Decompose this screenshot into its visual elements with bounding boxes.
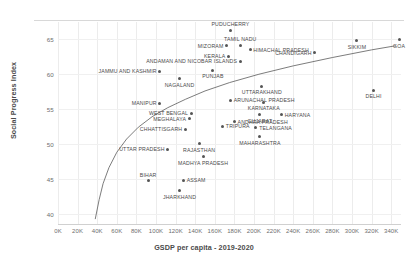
data-point[interactable] [229, 29, 232, 32]
data-point[interactable] [239, 60, 242, 63]
x-axis-tick-label: 340K [384, 228, 398, 234]
y-axis-tick-label: 45 [47, 175, 54, 182]
data-point-label: TELANGANA [259, 125, 292, 131]
x-axis-tick-label: 60K [111, 228, 122, 234]
x-axis-tick-label: 100K [149, 228, 163, 234]
data-point[interactable] [190, 112, 193, 115]
data-point-label: DELHI [366, 93, 382, 99]
x-axis-title: GSDP per capita - 2019-2020 [0, 243, 408, 252]
data-point[interactable] [211, 69, 214, 72]
x-axis-tick-label: 80K [131, 228, 142, 234]
data-point-label: PUNJAB [202, 73, 223, 79]
data-point[interactable] [202, 155, 205, 158]
scatter-chart: PUDUCHERRYTAMIL NADUMIZORAMHIMACHAL PRAD… [0, 0, 408, 261]
x-axis-tick-label: 300K [345, 228, 359, 234]
x-axis-tick-label: 180K [227, 228, 241, 234]
data-point-label: UTTARAKHAND [242, 89, 282, 95]
data-point-label: UTTAR PRADESH [119, 146, 164, 152]
y-axis-tick-label: 65 [47, 36, 54, 43]
x-axis-line [58, 224, 401, 225]
x-axis-ticks: 0K20K40K60K80K100K120K140K160K180K200K22… [58, 228, 401, 240]
data-point-label: MANIPUR [132, 100, 157, 106]
y-axis-tick-label: 55 [47, 106, 54, 113]
data-point-label: ANDAMAN AND NICOBAR ISLANDS [146, 58, 237, 64]
data-point-label: HARYANA [285, 112, 311, 118]
data-point-label: JHARKHAND [163, 194, 196, 200]
x-axis-tick-label: 220K [266, 228, 280, 234]
data-point[interactable] [372, 89, 375, 92]
x-axis-tick-label: 200K [247, 228, 261, 234]
data-point[interactable] [184, 128, 187, 131]
x-axis-tick-label: 120K [168, 228, 182, 234]
data-point-label: ASSAM [187, 177, 206, 183]
y-axis-title: Social Progress Index [9, 46, 18, 156]
data-point-label: TRIPURA [226, 123, 250, 129]
y-axis-tick-label: 40 [47, 210, 54, 217]
y-axis-tick-label: 50 [47, 140, 54, 147]
x-axis-tick-label: 260K [306, 228, 320, 234]
data-point-label: RAJASTHAN [183, 147, 215, 153]
data-point-label: KARNATAKA [248, 105, 280, 111]
data-point-label: MAHARASHTRA [239, 140, 280, 146]
data-point-label: JAMMU AND KASHMIR [99, 68, 157, 74]
data-point-label: MEGHALAYA [153, 116, 186, 122]
y-axis-ticks: 656055504540 [34, 22, 54, 224]
data-point-label: PUDUCHERRY [211, 21, 249, 27]
x-axis-tick-label: 160K [208, 228, 222, 234]
data-point-label: GOA [393, 43, 405, 49]
data-point-label: TAMIL NADU [224, 36, 256, 42]
data-point-label: SIKKIM [348, 44, 366, 50]
data-point[interactable] [239, 44, 242, 47]
x-axis-tick-label: 320K [364, 228, 378, 234]
x-axis-tick-label: 40K [92, 228, 103, 234]
x-axis-tick-label: 0K [54, 228, 62, 234]
data-point-label: BIHAR [140, 172, 157, 178]
x-axis-tick-label: 280K [325, 228, 339, 234]
data-point[interactable] [229, 99, 232, 102]
data-point[interactable] [262, 101, 265, 104]
data-point-label: NAGALAND [165, 82, 195, 88]
data-point-label: CHANDIGARH [275, 50, 311, 56]
data-point[interactable] [182, 179, 185, 182]
data-point-label: MIZORAM [198, 43, 224, 49]
y-axis-tick-label: 60 [47, 71, 54, 78]
x-axis-tick-label: 140K [188, 228, 202, 234]
x-axis-tick-label: 240K [286, 228, 300, 234]
plot-area: PUDUCHERRYTAMIL NADUMIZORAMHIMACHAL PRAD… [58, 22, 401, 224]
data-point[interactable] [178, 77, 181, 80]
x-axis-tick-label: 20K [72, 228, 83, 234]
data-point-label: CHHATTISGARH [140, 126, 182, 132]
data-point-label: MADHYA PRADESH [178, 160, 228, 166]
data-point[interactable] [398, 38, 401, 41]
